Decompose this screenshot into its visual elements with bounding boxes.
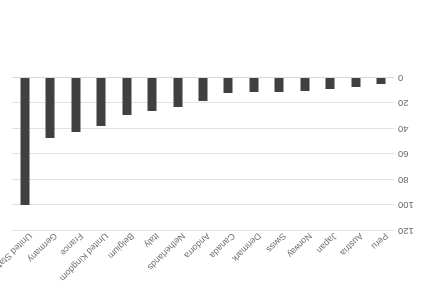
bars-group: PeruAustriaJapanNorwaySwissDenmarkCanada… [12,78,394,231]
bar[interactable] [97,78,106,126]
bar-slot: Germany [37,78,62,231]
bar[interactable] [351,78,360,87]
y-axis-tick-label: 80 [398,176,428,186]
bar[interactable] [249,78,258,92]
plot-area: 020406080100120 PeruAustriaJapanNorwaySw… [12,78,394,231]
bar-slot: Japan [318,78,343,231]
bar[interactable] [326,78,335,89]
bar[interactable] [20,78,29,206]
category-label: Belgium [106,231,135,260]
bar-slot: Italy [139,78,164,231]
bar[interactable] [300,78,309,91]
bar[interactable] [275,78,284,92]
y-axis-tick-label: 100 [398,201,428,211]
bar-slot: United States [12,78,37,231]
bar[interactable] [71,78,80,132]
category-label: Norway [285,231,313,259]
bar[interactable] [122,78,131,115]
bar[interactable] [377,78,386,84]
y-axis-tick-label: 0 [398,74,428,84]
category-label: Peru [370,231,390,251]
bar-slot: United Kingdom [88,78,113,231]
category-label: Austria [338,231,364,257]
y-axis-tick-label: 40 [398,125,428,135]
bar-slot: Andorra [190,78,215,231]
category-label: Italy [142,231,160,249]
bar[interactable] [199,78,208,101]
bar[interactable] [173,78,182,107]
category-label: Japan [315,231,339,255]
bar-slot: Canada [216,78,241,231]
y-axis-tick-label: 120 [398,227,428,237]
y-axis-tick-label: 60 [398,150,428,160]
category-label: Swiss [265,231,288,254]
bar[interactable] [148,78,157,111]
bar-slot: Norway [292,78,317,231]
bar-slot: France [63,78,88,231]
bar-slot: Austria [343,78,368,231]
bar-slot: Netherlands [165,78,190,231]
bar-slot: Peru [369,78,394,231]
category-label: Andorra [182,231,211,260]
bar-slot: Swiss [267,78,292,231]
bar-slot: Denmark [241,78,266,231]
bar[interactable] [46,78,55,138]
y-axis-tick-label: 20 [398,99,428,109]
bar[interactable] [224,78,233,93]
bar-slot: Belgium [114,78,139,231]
